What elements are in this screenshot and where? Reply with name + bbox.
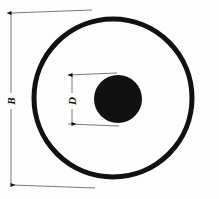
- dimension-label-b: B: [5, 97, 17, 105]
- dimension-label-d: D: [66, 97, 78, 106]
- inner-circle: [94, 75, 142, 123]
- dimension-label-d-group: D: [66, 93, 78, 109]
- cross-section-drawing: B D: [0, 0, 219, 199]
- diagram-canvas: B D: [0, 0, 219, 199]
